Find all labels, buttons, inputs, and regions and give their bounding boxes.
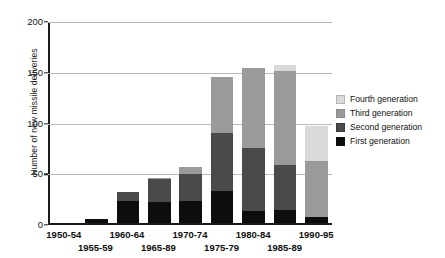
stacked-bar[interactable] bbox=[85, 219, 108, 223]
x-tick-label: 1970-74 bbox=[173, 230, 208, 240]
legend-item[interactable]: Fourth generation bbox=[336, 92, 442, 106]
stacked-bar[interactable] bbox=[179, 167, 202, 224]
stacked-bar[interactable] bbox=[117, 192, 140, 223]
legend-swatch-icon bbox=[336, 109, 345, 118]
bar-series-group bbox=[50, 22, 332, 223]
bar-segment bbox=[242, 148, 265, 211]
bar-segment bbox=[117, 192, 140, 201]
bar-slot bbox=[144, 22, 175, 223]
bar-segment bbox=[305, 217, 328, 223]
bar-segment bbox=[179, 174, 202, 201]
bar-segment bbox=[211, 191, 234, 223]
bar-slot bbox=[112, 22, 143, 223]
y-tick-label: 0 bbox=[38, 220, 43, 230]
bar-segment bbox=[148, 202, 171, 223]
plot-area: 050100150200 bbox=[48, 22, 332, 225]
x-tick-label: 1980-84 bbox=[236, 230, 271, 240]
bar-segment bbox=[305, 126, 328, 161]
x-tick-label: 1965-89 bbox=[141, 243, 176, 253]
bar-segment bbox=[148, 179, 171, 202]
x-axis-line bbox=[48, 223, 332, 225]
y-tick-label: 50 bbox=[32, 170, 43, 180]
y-tick-mark bbox=[44, 72, 48, 73]
stacked-bar[interactable] bbox=[305, 126, 328, 223]
bar-segment bbox=[274, 210, 297, 223]
legend-item[interactable]: Third generation bbox=[336, 106, 442, 120]
x-tick-label: 1985-89 bbox=[267, 243, 302, 253]
bar-segment bbox=[211, 77, 234, 133]
bar-segment bbox=[242, 211, 265, 223]
stacked-bar[interactable] bbox=[211, 77, 234, 223]
chart-figure: Number of new missile deliveries 0501001… bbox=[0, 0, 445, 258]
bar-segment bbox=[117, 201, 140, 223]
y-tick-mark bbox=[44, 123, 48, 124]
y-tick-label: 200 bbox=[27, 17, 43, 27]
bar-slot bbox=[301, 22, 332, 223]
bar-segment bbox=[274, 71, 297, 164]
legend-swatch-icon bbox=[336, 123, 345, 132]
legend-label: Second generation bbox=[350, 123, 422, 132]
y-tick-label: 100 bbox=[27, 119, 43, 129]
bar-segment bbox=[211, 133, 234, 191]
y-tick-label: 150 bbox=[27, 68, 43, 78]
x-axis-tick-labels: 1950-541955-591960-641965-891970-741975-… bbox=[48, 227, 332, 257]
legend-label: First generation bbox=[350, 137, 410, 146]
bar-slot bbox=[50, 22, 81, 223]
x-tick-label: 1950-54 bbox=[46, 230, 81, 240]
bar-slot bbox=[81, 22, 112, 223]
stacked-bar[interactable] bbox=[242, 68, 265, 223]
x-tick-label: 1975-79 bbox=[204, 243, 239, 253]
x-tick-label: 1955-59 bbox=[78, 243, 113, 253]
x-tick-label: 1960-64 bbox=[109, 230, 144, 240]
legend-item[interactable]: First generation bbox=[336, 134, 442, 148]
y-tick-mark bbox=[44, 21, 48, 22]
bar-segment bbox=[85, 219, 108, 223]
y-tick-mark bbox=[44, 224, 48, 225]
chart-legend: Fourth generationThird generationSecond … bbox=[336, 92, 442, 148]
bar-slot bbox=[269, 22, 300, 223]
bar-segment bbox=[179, 201, 202, 223]
stacked-bar[interactable] bbox=[274, 65, 297, 223]
legend-swatch-icon bbox=[336, 95, 345, 104]
bar-segment bbox=[274, 165, 297, 211]
bar-segment bbox=[179, 167, 202, 174]
x-tick-label: 1990-95 bbox=[299, 230, 334, 240]
stacked-bar[interactable] bbox=[148, 178, 171, 224]
bar-segment bbox=[305, 161, 328, 218]
bar-slot bbox=[206, 22, 237, 223]
bar-slot bbox=[175, 22, 206, 223]
bar-slot bbox=[238, 22, 269, 223]
legend-swatch-icon bbox=[336, 137, 345, 146]
legend-item[interactable]: Second generation bbox=[336, 120, 442, 134]
legend-label: Third generation bbox=[350, 109, 413, 118]
legend-label: Fourth generation bbox=[350, 95, 418, 104]
bar-segment bbox=[242, 68, 265, 148]
y-tick-mark bbox=[44, 174, 48, 175]
